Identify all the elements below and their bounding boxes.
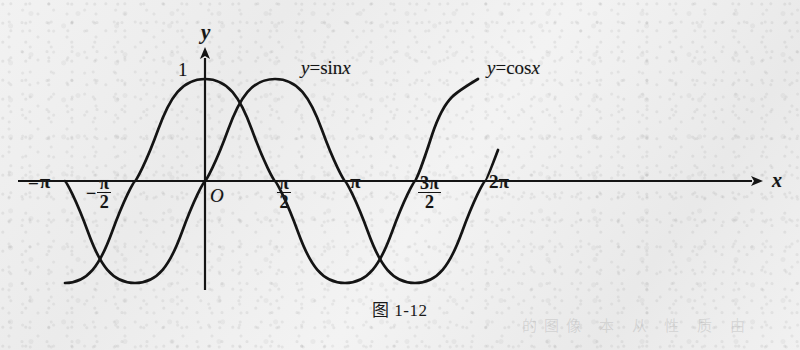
fraction-numerator: 3π — [418, 174, 441, 192]
figure-caption: 图 1-12 — [372, 296, 427, 321]
fraction-numerator: π — [97, 174, 111, 192]
curve-label-cosine: y=cosx — [487, 58, 540, 77]
origin-label: O — [210, 186, 224, 205]
x-axis-label: x — [772, 170, 782, 190]
curve-label-sine: y=sinx — [301, 58, 351, 77]
x-tick-label-neg-pi-over-2: −π2 — [86, 174, 111, 212]
x-tick-label-3pi-over-2: 3π2 — [418, 174, 441, 212]
curve-label-sine-eq: =sin — [309, 57, 342, 78]
minus-sign: − — [86, 184, 96, 202]
fraction-numerator: π — [277, 174, 291, 192]
x-tick-label-neg-pi: −π — [28, 172, 50, 193]
x-tick-label-pi: π — [350, 172, 360, 191]
fraction: 3π2 — [418, 174, 441, 212]
fraction-denominator: 2 — [277, 192, 291, 211]
pi-glyph: π — [40, 171, 50, 192]
page-bleed-through-text: 的图像 本 从 性 质 由 — [522, 314, 752, 335]
curve-label-sine-var: x — [342, 57, 350, 78]
curve-label-cosine-var: x — [531, 57, 539, 78]
fraction: π2 — [97, 174, 111, 212]
figure-sine-cosine-graph: y x O 1 −π −π2 π2 π 3π2 2π y=sinx y=cosx… — [0, 0, 800, 350]
fraction-denominator: 2 — [418, 192, 441, 211]
y-axis-label: y — [201, 22, 210, 43]
x-tick-label-2pi: 2π — [489, 172, 509, 191]
fraction-denominator: 2 — [97, 192, 111, 211]
fraction: π2 — [277, 174, 291, 212]
x-tick-label-pi-over-2: π2 — [277, 174, 291, 212]
minus-sign: − — [28, 174, 39, 193]
y-unit-tick-label: 1 — [178, 60, 188, 79]
curve-label-cosine-eq: =cos — [495, 57, 531, 78]
